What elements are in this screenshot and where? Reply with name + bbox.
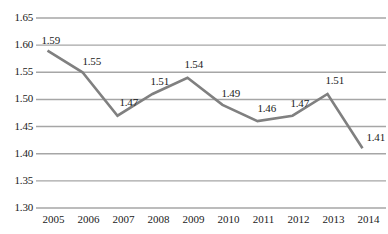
x-axis-tick-label: 2013 [316,213,351,225]
gridline-group [36,18,386,208]
x-axis-tick-label: 2008 [141,213,176,225]
y-axis-tick-label: 1.45 [0,120,33,132]
data-point-label: 1.49 [222,87,240,99]
data-point-label: 1.47 [291,97,309,109]
x-axis-tick-label: 2009 [176,213,211,225]
y-axis-tick-label: 1.50 [0,92,33,104]
x-axis-tick-label: 2010 [211,213,246,225]
x-axis-tick-label: 2014 [351,213,386,225]
data-point-label: 1.54 [185,58,203,70]
data-point-label: 1.59 [42,34,60,46]
x-axis-tick-label: 2011 [246,213,281,225]
data-point-label: 1.51 [326,74,344,86]
y-axis-tick-label: 1.40 [0,147,33,159]
line-chart: 1.651.601.551.501.451.401.351.30 2005200… [0,0,388,234]
y-axis-tick-label: 1.30 [0,201,33,213]
y-axis-tick-label: 1.60 [0,38,33,50]
data-point-label: 1.47 [120,96,138,108]
y-axis-tick-label: 1.35 [0,174,33,186]
y-axis-tick-label: 1.55 [0,65,33,77]
data-point-label: 1.55 [83,55,101,67]
data-point-label: 1.46 [258,102,276,114]
x-axis-tick-label: 2012 [281,213,316,225]
x-axis-tick-label: 2005 [36,213,71,225]
data-point-label: 1.51 [151,75,169,87]
x-axis-tick-label: 2007 [106,213,141,225]
data-point-label: 1.41 [367,131,385,143]
y-axis-tick-label: 1.65 [0,11,33,23]
x-axis-tick-label: 2006 [71,213,106,225]
